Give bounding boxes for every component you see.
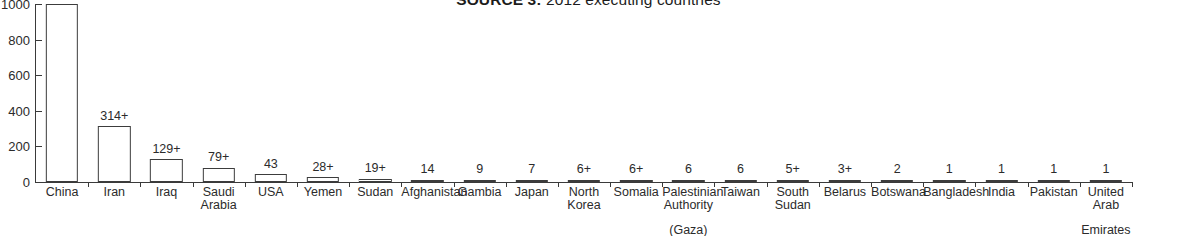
x-category-label: SouthSudan bbox=[767, 186, 819, 211]
x-category-label-line: Sudan bbox=[357, 185, 393, 199]
x-category-tick bbox=[506, 182, 507, 187]
x-category-label: China bbox=[36, 186, 88, 199]
bar-group: 6 bbox=[714, 0, 766, 182]
x-category-label-line: Japan bbox=[515, 185, 549, 199]
x-category-tick bbox=[140, 182, 141, 187]
bar-group: 1 bbox=[1080, 0, 1132, 182]
x-category-label-line: (Gaza) bbox=[662, 224, 714, 237]
x-category-label-line: Somalia bbox=[614, 185, 659, 199]
x-category-label: NorthKorea bbox=[558, 186, 610, 211]
x-category-label-line: United bbox=[1088, 185, 1124, 199]
x-category-tick bbox=[610, 182, 611, 187]
bar-group: 6+ bbox=[610, 0, 662, 182]
bar-value-label: 5+ bbox=[786, 163, 800, 176]
bar bbox=[150, 159, 182, 182]
x-category-label: USA bbox=[245, 186, 297, 199]
bar-group: 1 bbox=[923, 0, 975, 182]
bar-value-label: 9 bbox=[476, 163, 483, 176]
x-category-tick bbox=[662, 182, 663, 187]
y-tick-mark-1000 bbox=[36, 4, 42, 5]
bar-group: 3+ bbox=[819, 0, 871, 182]
x-category-label: Bangladesh bbox=[923, 186, 975, 199]
bar bbox=[46, 4, 78, 182]
x-category-tick bbox=[401, 182, 402, 187]
x-category-label: Botswana bbox=[871, 186, 923, 199]
bar bbox=[202, 168, 234, 182]
x-category-tick bbox=[349, 182, 350, 187]
y-tick-label-600: 600 bbox=[0, 69, 30, 82]
bar-value-label: 1 bbox=[1102, 163, 1109, 176]
bar bbox=[255, 174, 287, 182]
x-category-tick bbox=[975, 182, 976, 187]
x-category-label: Pakistan bbox=[1028, 186, 1080, 199]
bar-value-label: 1 bbox=[946, 163, 953, 176]
x-category-tick bbox=[245, 182, 246, 187]
x-category-label-line: Gambia bbox=[458, 185, 502, 199]
bar-value-label: 3+ bbox=[838, 163, 852, 176]
bar-value-label: 7 bbox=[528, 163, 535, 176]
bar-group: 43 bbox=[245, 0, 297, 182]
x-category-label-line: USA bbox=[258, 185, 284, 199]
x-category-label-line: Arab bbox=[1080, 199, 1132, 212]
x-category-tick bbox=[767, 182, 768, 187]
bar-group: 5+ bbox=[767, 0, 819, 182]
bar-value-label: 314+ bbox=[100, 110, 128, 123]
bar-group: 1 bbox=[975, 0, 1027, 182]
x-axis-line bbox=[35, 182, 1132, 183]
x-category-label: Taiwan bbox=[714, 186, 766, 199]
x-category-tick bbox=[454, 182, 455, 187]
x-category-label-line: Saudi bbox=[203, 185, 235, 199]
bar-group: 9 bbox=[454, 0, 506, 182]
x-category-label: India bbox=[975, 186, 1027, 199]
y-axis-tick-labels: 02004006008001000 bbox=[0, 0, 30, 236]
bar-value-label: 6+ bbox=[577, 163, 591, 176]
x-category-label: Gambia bbox=[454, 186, 506, 199]
x-category-label: Iraq bbox=[140, 186, 192, 199]
x-category-label-line: Arabia bbox=[193, 199, 245, 212]
x-category-label-line: Authority bbox=[662, 199, 714, 212]
y-tick-mark-600 bbox=[36, 75, 42, 76]
x-category-label: Japan bbox=[506, 186, 558, 199]
y-tick-mark-800 bbox=[36, 40, 42, 41]
x-category-tick bbox=[819, 182, 820, 187]
x-category-label: PalestinianAuthority(Gaza) bbox=[662, 186, 714, 236]
y-tick-label-200: 200 bbox=[0, 140, 30, 153]
bar bbox=[98, 126, 130, 182]
bar-value-label: 1 bbox=[1050, 163, 1057, 176]
x-category-label-line: Iran bbox=[104, 185, 126, 199]
x-category-label-line: India bbox=[988, 185, 1015, 199]
bar-value-label: 19+ bbox=[365, 162, 386, 175]
x-category-label-line: Korea bbox=[558, 199, 610, 212]
x-category-tick bbox=[871, 182, 872, 187]
x-category-label-line: Botswana bbox=[871, 185, 926, 199]
x-category-label: Belarus bbox=[819, 186, 871, 199]
x-category-tick bbox=[88, 182, 89, 187]
x-category-label-line: North bbox=[569, 185, 600, 199]
x-category-tick bbox=[1080, 182, 1081, 187]
x-category-label-line: South bbox=[776, 185, 809, 199]
y-tick-mark-400 bbox=[36, 111, 42, 112]
x-axis-category-labels: ChinaIranIraqSaudiArabiaUSAYemenSudanAfg… bbox=[36, 186, 1132, 236]
bar-group: 2 bbox=[871, 0, 923, 182]
x-category-label: Sudan bbox=[349, 186, 401, 199]
x-category-label-line: Pakistan bbox=[1030, 185, 1078, 199]
x-category-tick bbox=[714, 182, 715, 187]
y-tick-label-800: 800 bbox=[0, 33, 30, 46]
x-category-label: Somalia bbox=[610, 186, 662, 199]
bar-group: 6+ bbox=[558, 0, 610, 182]
x-category-label-line: Yemen bbox=[304, 185, 342, 199]
bar-group: 14 bbox=[401, 0, 453, 182]
bar-group: 314+ bbox=[88, 0, 140, 182]
y-tick-mark-200 bbox=[36, 146, 42, 147]
bar-group: 1 bbox=[1028, 0, 1080, 182]
bar-value-label: 1 bbox=[998, 163, 1005, 176]
bar-value-label: 6+ bbox=[629, 163, 643, 176]
bar-value-label: 14 bbox=[420, 163, 434, 176]
bar-value-label: 28+ bbox=[312, 161, 333, 174]
bar-group: 79+ bbox=[193, 0, 245, 182]
y-tick-label-1000: 1000 bbox=[0, 0, 30, 11]
bar-group: 6 bbox=[662, 0, 714, 182]
x-category-label-line: China bbox=[46, 185, 79, 199]
x-category-label: SaudiArabia bbox=[193, 186, 245, 211]
bar-group: 7 bbox=[506, 0, 558, 182]
